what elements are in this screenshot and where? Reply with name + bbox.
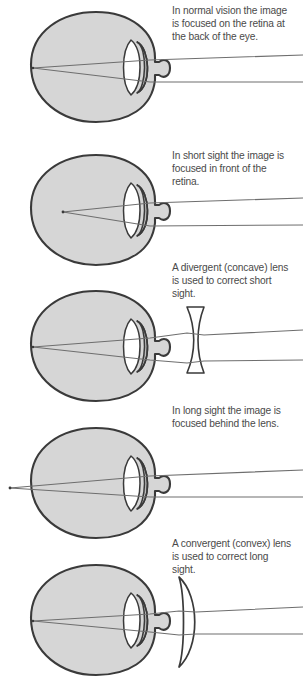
focus-point-short-corrected bbox=[32, 346, 34, 348]
panel-long-sight bbox=[9, 428, 303, 538]
focus-point-normal bbox=[32, 67, 34, 69]
convergent-convex-lens bbox=[179, 577, 195, 667]
focus-point-short bbox=[62, 211, 65, 214]
caption-short-sight-corrected: A divergent (concave) lens is used to co… bbox=[172, 261, 300, 301]
panel-long-sight-corrected bbox=[31, 565, 303, 675]
caption-normal-vision: In normal vision the image is focused on… bbox=[172, 4, 300, 44]
eyeball-outline-short bbox=[31, 155, 170, 265]
caption-short-sight: In short sight the image is focused in f… bbox=[172, 149, 300, 189]
eyeball-outline-long bbox=[31, 428, 170, 538]
panel-short-sight-corrected bbox=[31, 291, 303, 401]
caption-long-sight: In long sight the image is focused behin… bbox=[172, 404, 300, 430]
focus-point-long-corrected bbox=[32, 620, 34, 622]
caption-long-sight-corrected: A convergent (convex) lens is used to co… bbox=[172, 537, 300, 577]
focus-point-long bbox=[9, 487, 12, 490]
eye-focusing-diagram bbox=[0, 0, 303, 693]
